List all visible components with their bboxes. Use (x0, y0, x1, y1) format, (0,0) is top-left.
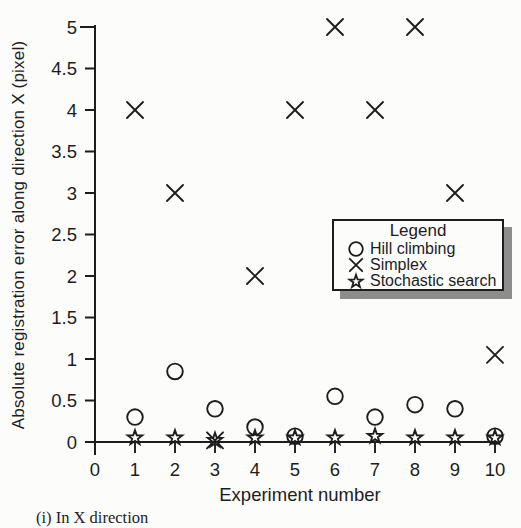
circle-marker (127, 409, 143, 425)
legend-title: Legend (334, 221, 502, 241)
y-ticks (80, 27, 95, 442)
x-tick-label: 0 (90, 459, 100, 480)
star-marker-icon (346, 273, 370, 289)
x-glyph (350, 259, 362, 271)
y-tick-label: 5 (67, 17, 77, 38)
x-tick-label: 2 (170, 459, 180, 480)
y-tick-label: 4.5 (51, 58, 77, 79)
figure-caption: (i) In X direction (36, 508, 148, 528)
x-tick-label: 6 (330, 459, 340, 480)
star-marker (368, 429, 382, 443)
x-marker (447, 185, 463, 201)
x-marker-icon (346, 257, 370, 273)
figure-page: 00.511.522.533.544.55012345678910Experim… (0, 0, 521, 528)
x-marker (367, 102, 383, 118)
x-marker (407, 19, 423, 35)
star-glyph (350, 275, 363, 287)
circle-glyph (349, 242, 363, 256)
x-tick-label: 8 (410, 459, 420, 480)
chart-legend: Legend Hill climbingSimplexStochastic se… (332, 219, 504, 291)
circle-marker (407, 397, 423, 413)
legend-item: Hill climbing (334, 241, 502, 257)
x-tick-label: 1 (130, 459, 140, 480)
x-axis-title: Experiment number (219, 484, 380, 505)
y-tick-label: 1.5 (51, 307, 77, 328)
x-marker (487, 347, 503, 363)
y-tick-label: 3 (67, 183, 77, 204)
circle-marker (367, 409, 383, 425)
y-tick-label: 0.5 (51, 390, 77, 411)
x-tick-label: 7 (370, 459, 380, 480)
y-tick-label: 2.5 (51, 224, 77, 245)
circle-marker (207, 401, 223, 417)
legend-item-label: Stochastic search (370, 272, 496, 290)
y-tick-label: 3.5 (51, 141, 77, 162)
x-tick-label: 3 (210, 459, 220, 480)
y-tick-label: 1 (67, 349, 77, 370)
x-marker (167, 185, 183, 201)
y-tick-label: 0 (67, 432, 77, 453)
y-axis-title: Absolute registration error along direct… (9, 41, 28, 430)
circle-marker-icon (346, 241, 370, 257)
series-stochastic-search (128, 429, 502, 447)
x-tick-label: 5 (290, 459, 300, 480)
legend-item: Simplex (334, 257, 502, 273)
series-hill-climbing (127, 364, 503, 444)
legend-item: Stochastic search (334, 273, 502, 289)
x-tick-label: 9 (450, 459, 460, 480)
x-marker (287, 102, 303, 118)
x-marker (327, 19, 343, 35)
y-tick-label: 4 (67, 100, 77, 121)
x-marker (127, 102, 143, 118)
x-tick-label: 4 (250, 459, 260, 480)
circle-marker (327, 389, 343, 405)
y-tick-label: 2 (67, 266, 77, 287)
x-tick-label: 10 (485, 459, 506, 480)
x-marker (247, 268, 263, 284)
circle-marker (447, 401, 463, 417)
circle-marker (167, 364, 183, 380)
